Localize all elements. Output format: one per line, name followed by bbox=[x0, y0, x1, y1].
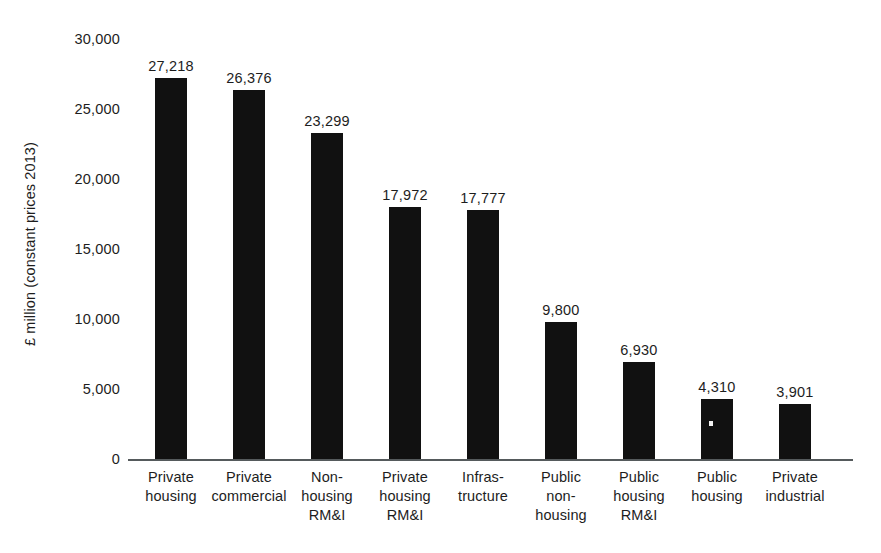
bar-chart: £ million (constant prices 2013) 30,0002… bbox=[0, 0, 881, 553]
bar-value-label: 26,376 bbox=[226, 70, 272, 86]
bar bbox=[233, 90, 265, 459]
bar bbox=[155, 78, 187, 459]
scan-artifact bbox=[709, 421, 713, 426]
bar bbox=[311, 133, 343, 459]
bar-value-label: 4,310 bbox=[698, 379, 735, 395]
bar bbox=[701, 399, 733, 459]
bar-value-label: 6,930 bbox=[620, 342, 657, 358]
bar bbox=[623, 362, 655, 459]
bar-value-label: 9,800 bbox=[542, 302, 579, 318]
bar-value-label: 17,777 bbox=[460, 190, 506, 206]
bar bbox=[389, 207, 421, 459]
bar-value-label: 27,218 bbox=[148, 58, 194, 74]
x-axis-category-label: Privateindustrial bbox=[747, 468, 843, 506]
bar-value-label: 3,901 bbox=[776, 384, 813, 400]
bar bbox=[779, 404, 811, 459]
bar-value-label: 17,972 bbox=[382, 187, 428, 203]
bar bbox=[467, 210, 499, 459]
bar-value-label: 23,299 bbox=[304, 113, 350, 129]
bar bbox=[545, 322, 577, 459]
